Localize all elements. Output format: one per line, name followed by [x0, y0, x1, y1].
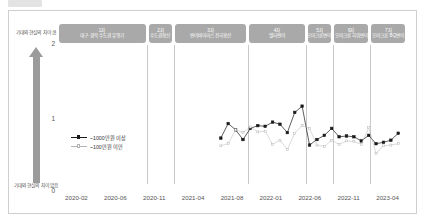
legend-label: ~100만원 미만	[90, 143, 123, 150]
data-point	[293, 111, 296, 114]
legend-item-2: ~100만원 미만	[71, 142, 133, 151]
data-point	[382, 141, 385, 144]
series-line-low	[221, 126, 398, 154]
data-point	[272, 143, 274, 145]
data-point	[264, 125, 267, 128]
legend-marker-icon	[71, 134, 87, 141]
data-point	[375, 142, 378, 145]
x-axis-ticks: 2020-022020-062020-112021-042021-082022-…	[57, 194, 407, 208]
data-point	[397, 132, 400, 135]
x-tick-label: 2020-06	[104, 194, 127, 201]
data-point	[397, 143, 399, 145]
data-point	[390, 139, 393, 142]
y-axis-caption-top: 기대와 현실의 차이 큼	[10, 30, 62, 36]
wave-band-name: 변이바이러스 전국확산	[190, 34, 231, 39]
y-tick-1: 1	[43, 115, 55, 122]
legend-marker-icon	[71, 143, 87, 150]
data-point	[242, 138, 245, 141]
arrow-shaft	[33, 56, 40, 183]
wave-band-chip-1: 1차대구·경북 수도권 유행기	[59, 24, 146, 43]
data-point	[368, 127, 370, 129]
data-point	[338, 143, 340, 145]
wave-band-labels: 1차대구·경북 수도권 유행기2차수도권확산3차변이바이러스 전국확산4차델타변…	[57, 24, 407, 43]
data-point	[345, 140, 347, 142]
data-point	[279, 123, 282, 126]
data-point	[353, 135, 356, 138]
x-tick-label: 2021-04	[182, 194, 205, 201]
data-point	[375, 152, 377, 154]
expectation-gap-arrow	[29, 47, 43, 183]
x-tick-label: 2023-04	[376, 194, 399, 201]
data-point	[227, 122, 230, 125]
data-point	[390, 144, 392, 146]
wave-band-chip-5: 5차오미크론변이	[308, 24, 332, 43]
top-tab-chip	[8, 0, 42, 7]
wave-band-name: 오미크론 BQ변이	[372, 34, 404, 39]
y-tick-0: 0	[43, 187, 55, 194]
wave-band-chip-6: 6차오미크론 하위변이	[334, 24, 368, 43]
data-point	[360, 143, 362, 145]
data-point	[382, 145, 384, 147]
data-point	[316, 138, 319, 141]
data-point	[323, 145, 325, 147]
data-point	[220, 145, 222, 147]
wave-band-name: 오미크론변이	[308, 34, 332, 39]
data-point	[249, 126, 251, 128]
chart-figure-frame: 기대와 현실의 차이 큼 기대와 현실의 차이 없음 2 1 0 1차대구·경북…	[8, 10, 417, 214]
x-tick-label: 2020-02	[65, 194, 88, 201]
data-point	[286, 148, 288, 150]
series-line-high	[221, 106, 398, 145]
wave-band-name: 오미크론 하위변이	[335, 34, 368, 39]
wave-band-chip-7: 7차오미크론 BQ변이	[371, 24, 405, 43]
data-point	[294, 132, 296, 134]
legend-item-1: ~1000만원 이상	[71, 133, 133, 142]
data-point	[353, 141, 355, 143]
data-point	[309, 127, 311, 129]
data-point	[286, 131, 289, 134]
x-tick-label: 2021-08	[221, 194, 244, 201]
x-tick-label: 2020-11	[143, 194, 165, 201]
x-tick-label: 2022-01	[260, 194, 283, 201]
series-plot	[57, 45, 407, 184]
data-point	[301, 125, 303, 127]
data-point	[345, 135, 348, 138]
x-tick-label: 2022-11	[338, 194, 360, 201]
data-point	[235, 129, 237, 131]
wave-band-name: 델타변이	[269, 34, 285, 39]
x-tick-label: 2022-06	[298, 194, 321, 201]
wave-band-name: 대구·경북 수도권 유행기	[80, 34, 124, 39]
wave-band-chip-2: 2차수도권확산	[149, 24, 172, 43]
wave-band-name: 수도권확산	[150, 34, 170, 39]
chart-legend: ~1000만원 이상~100만원 미만	[71, 133, 133, 151]
wave-band-chip-3: 3차변이바이러스 전국확산	[175, 24, 246, 43]
y-tick-2: 2	[43, 40, 55, 47]
data-point	[242, 132, 244, 134]
legend-label: ~1000만원 이상	[90, 134, 126, 141]
data-point	[271, 121, 274, 124]
data-point	[338, 135, 341, 138]
data-point	[367, 134, 370, 137]
data-point	[308, 144, 311, 147]
data-point	[330, 127, 333, 130]
plot-area	[57, 45, 407, 184]
wave-band-chip-4: 4차델타변이	[249, 24, 304, 43]
data-point	[264, 130, 266, 132]
data-point	[220, 137, 223, 140]
data-point	[257, 131, 259, 133]
data-point	[331, 139, 333, 141]
data-point	[227, 143, 229, 145]
data-point	[323, 134, 326, 137]
data-point	[279, 139, 281, 141]
data-point	[301, 105, 304, 108]
data-point	[316, 144, 318, 146]
data-point	[256, 124, 259, 127]
